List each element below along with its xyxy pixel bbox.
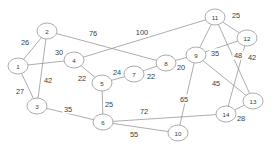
graph-node-4[interactable]: 4 [64, 52, 84, 68]
edge-weight-label: 24 [113, 68, 121, 77]
graph-edge [38, 39, 46, 98]
edge-weight-label: 72 [140, 107, 148, 116]
graph-edge [175, 58, 186, 61]
node-label: 14 [223, 111, 230, 118]
node-label: 1 [16, 63, 20, 70]
edge-weight-label: 100 [136, 28, 148, 37]
graph-edge [113, 123, 168, 131]
edge-weight-label: 26 [21, 38, 29, 47]
node-label: 11 [212, 14, 219, 21]
node-label: 4 [72, 57, 76, 64]
graph-node-14[interactable]: 14 [216, 106, 236, 122]
edge-weight-label: 25 [232, 11, 240, 20]
edge-weight-label: 42 [248, 53, 256, 62]
graph-node-8[interactable]: 8 [156, 55, 176, 71]
node-label: 12 [244, 35, 251, 42]
graph-node-11[interactable]: 11 [205, 9, 225, 25]
graph-edge [223, 22, 240, 33]
graph-edge [111, 77, 124, 81]
graph-node-5[interactable]: 5 [92, 75, 112, 91]
node-label: 10 [175, 130, 182, 137]
graph-svg-surface: 2627423076221002425222035725565354525484… [0, 0, 274, 151]
node-label: 9 [194, 52, 198, 59]
edge-weight-label: 20 [177, 63, 185, 72]
graph-node-2[interactable]: 2 [37, 23, 57, 39]
edge-weight-label: 48 [234, 51, 242, 60]
edge-weight-label: 42 [44, 76, 52, 85]
graph-node-12[interactable]: 12 [237, 30, 257, 46]
edge-weight-label: 55 [130, 130, 138, 139]
graph-node-10[interactable]: 10 [168, 125, 188, 141]
edge-weight-label: 35 [64, 105, 72, 114]
node-label: 5 [100, 80, 104, 87]
node-label: 6 [101, 119, 105, 126]
graph-edge [113, 115, 216, 122]
graph-node-6[interactable]: 6 [93, 114, 113, 130]
node-label: 2 [45, 28, 49, 35]
graph-node-9[interactable]: 9 [186, 47, 206, 63]
edge-weight-label: 27 [16, 87, 24, 96]
edge-weight-label: 28 [237, 114, 245, 123]
edge-weight-label: 22 [147, 72, 155, 81]
graph-edge [200, 24, 212, 47]
edge-weight-label: 35 [211, 49, 219, 58]
graph-edge [143, 66, 157, 71]
node-label: 3 [35, 103, 39, 110]
graph-node-3[interactable]: 3 [27, 98, 47, 114]
edge-weight-label: 22 [78, 74, 86, 83]
node-label: 7 [132, 71, 136, 78]
graph-edge [28, 61, 64, 65]
graph-edge [235, 105, 245, 110]
edge-weight-label: 65 [180, 95, 188, 104]
graph-diagram: 2627423076221002425222035725565354525484… [0, 0, 274, 151]
edge-weight-label: 25 [105, 100, 113, 109]
graph-node-7[interactable]: 7 [124, 66, 144, 82]
graph-edge [102, 91, 103, 114]
edge-weight-label: 76 [89, 29, 97, 38]
edge-weight-label: 30 [55, 48, 63, 57]
node-label: 8 [164, 60, 168, 67]
graph-node-13[interactable]: 13 [243, 93, 263, 109]
graph-node-1[interactable]: 1 [8, 58, 28, 74]
node-label: 13 [250, 98, 257, 105]
edge-weight-label: 45 [212, 79, 220, 88]
